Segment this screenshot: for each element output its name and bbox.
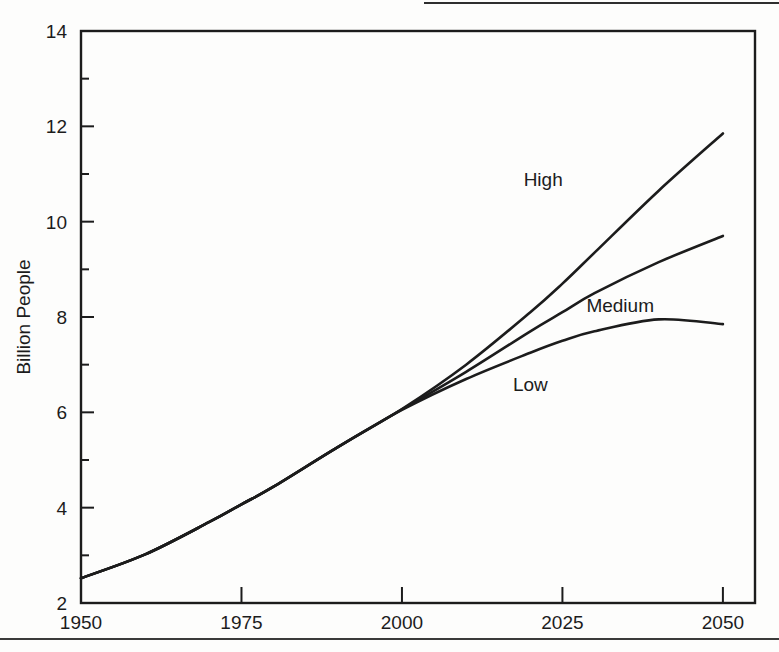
x-tick-label-2000: 2000 — [381, 612, 423, 633]
x-tick-label-1975: 1975 — [220, 612, 262, 633]
series-label-low: Low — [513, 374, 548, 395]
series-curve-high — [81, 133, 723, 578]
series-curve-medium — [81, 236, 723, 578]
y-tick-label-6: 6 — [56, 402, 67, 423]
x-tick-label-2050: 2050 — [702, 612, 744, 633]
y-tick-label-4: 4 — [56, 498, 67, 519]
y-tick-label-10: 10 — [46, 212, 67, 233]
chart-canvas: 2468101214 19501975200020252050 Billion … — [0, 0, 779, 652]
series-label-high: High — [524, 169, 563, 190]
plot-frame — [81, 31, 755, 603]
y-tick-label-14: 14 — [46, 21, 68, 42]
series-label-medium: Medium — [586, 295, 654, 316]
y-axis-tick-labels: 2468101214 — [46, 21, 68, 614]
series-curves — [81, 133, 723, 578]
y-tick-label-2: 2 — [56, 593, 67, 614]
y-axis-title: Billion People — [13, 259, 34, 374]
series-annotations: HighMediumLow — [513, 169, 654, 395]
y-tick-label-8: 8 — [56, 307, 67, 328]
x-tick-label-1950: 1950 — [60, 612, 102, 633]
series-curve-low — [81, 319, 723, 578]
x-tick-label-2025: 2025 — [541, 612, 583, 633]
x-axis-tick-labels: 19501975200020252050 — [60, 612, 744, 633]
y-tick-label-12: 12 — [46, 116, 67, 137]
x-axis-ticks — [81, 587, 723, 603]
population-projection-chart: 2468101214 19501975200020252050 Billion … — [0, 0, 779, 652]
